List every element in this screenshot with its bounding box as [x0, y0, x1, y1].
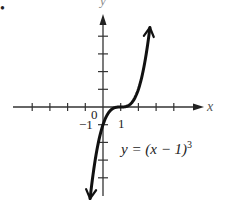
x-axis	[13, 104, 204, 111]
x-axis-label: x	[207, 99, 213, 115]
x-axis-arrow-icon	[193, 104, 204, 111]
equation-main: y = (x − 1)	[121, 141, 187, 157]
equation-label: y = (x − 1)3	[121, 139, 192, 158]
cubic-graph	[0, 0, 236, 200]
y-axis	[100, 14, 107, 196]
cubic-curve	[90, 27, 150, 198]
y-axis-arrow-icon	[100, 14, 107, 25]
x-one-label: 1	[118, 116, 125, 132]
equation-exponent: 3	[187, 139, 192, 150]
y-neg-one-label: −1	[79, 117, 93, 133]
y-axis-label: y	[100, 0, 106, 9]
